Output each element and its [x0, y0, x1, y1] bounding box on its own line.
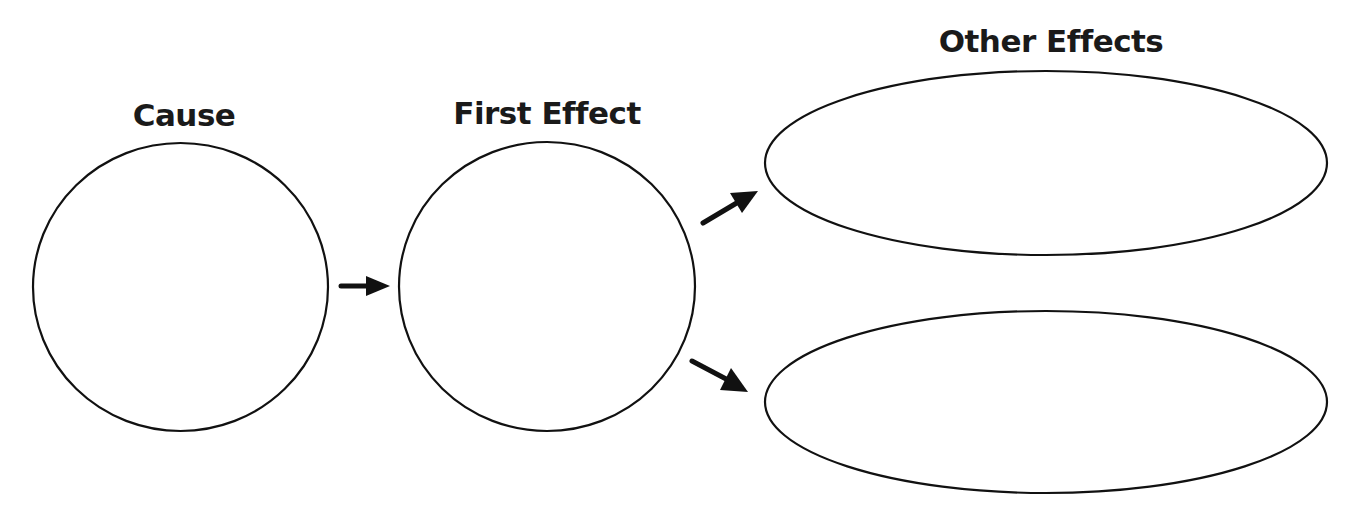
first-effect-circle[interactable] [399, 142, 695, 431]
cause-circle[interactable] [33, 143, 328, 431]
cause-effect-diagram: Cause First Effect Other Effects [0, 0, 1356, 512]
other-effects-label: Other Effects [939, 23, 1164, 59]
other-effect-ellipse-2[interactable] [765, 311, 1327, 493]
arrow-right-icon [341, 276, 390, 296]
arrow-down-right-icon [692, 361, 748, 392]
first-effect-label: First Effect [453, 95, 641, 131]
arrow-up-right-icon [703, 191, 758, 223]
other-effect-ellipse-1[interactable] [765, 71, 1327, 255]
cause-label: Cause [133, 97, 236, 133]
